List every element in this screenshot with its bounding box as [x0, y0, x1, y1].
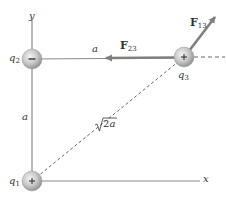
- distance-q1-q2-label: a: [22, 112, 28, 122]
- charge-q3-sphere: [174, 47, 194, 67]
- charge-q3-label: q3: [178, 70, 189, 82]
- charge-q1-label: q1: [9, 176, 20, 188]
- distance-q1-q3-label: 2a: [103, 119, 115, 129]
- charge-q2-sphere: [22, 49, 42, 69]
- charge-q2-label: q2: [9, 53, 20, 65]
- force-f23-label: F23: [120, 40, 137, 53]
- distance-q2-q3-label: a: [92, 44, 98, 54]
- y-axis-label: y: [29, 11, 35, 21]
- charge-q1-sphere: [22, 171, 42, 191]
- x-axis-label: x: [203, 174, 209, 184]
- charge-diagram: y x q2 q3 q1 a a 2a F23 F13: [0, 0, 226, 199]
- force-f23-arrow: [106, 58, 176, 59]
- force-f13-label: F13: [190, 17, 207, 30]
